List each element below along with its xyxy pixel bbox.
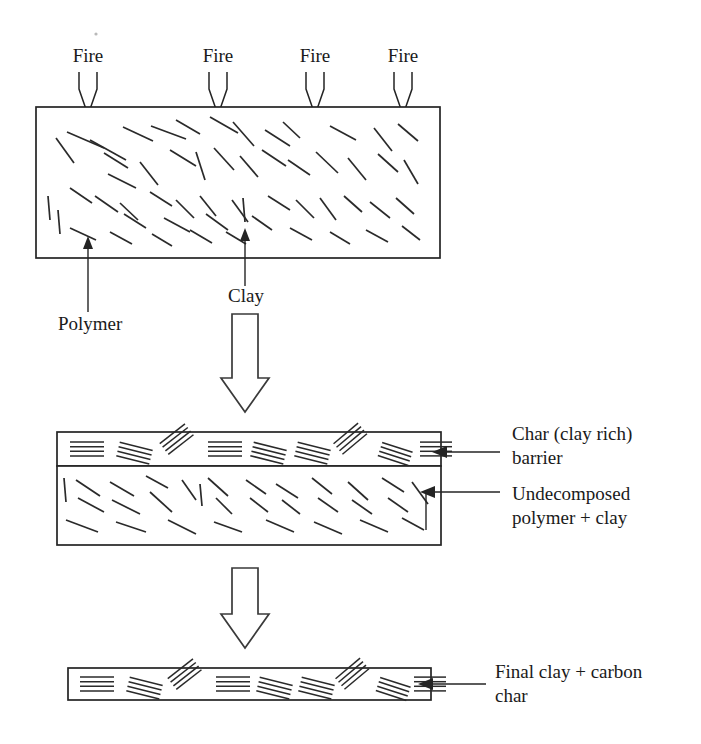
char-barrier-label-1: Char (clay rich): [512, 423, 632, 445]
final-stage-bar: [68, 658, 446, 700]
bottom-callout-group: Final clay + carbonchar: [418, 661, 643, 706]
undecomposed-label-2: polymer + clay: [512, 507, 628, 528]
fire-arrows-group: FireFireFireFire: [73, 45, 419, 115]
final-char-label-2: char: [495, 685, 528, 706]
initial-composite-box: [36, 107, 440, 258]
clay-label: Clay: [228, 285, 264, 306]
fire-label-2: Fire: [300, 45, 331, 66]
polymer-label: Polymer: [58, 313, 123, 334]
char-barrier-band: [57, 432, 441, 466]
final-char-bar: [68, 668, 431, 700]
final-char-label-1: Final clay + carbon: [495, 661, 643, 682]
process-arrow-2: [221, 568, 269, 648]
nanocomposite-fire-diagram: FireFireFireFire PolymerClay Char (clay …: [0, 0, 701, 744]
mid-callout-group: Char (clay rich)barrierUndecomposedpolym…: [420, 423, 632, 530]
fire-label-0: Fire: [73, 45, 104, 66]
figure-container: FireFireFireFire PolymerClay Char (clay …: [0, 0, 701, 744]
char-barrier-label-2: barrier: [512, 447, 563, 468]
fire-label-1: Fire: [203, 45, 234, 66]
undecomposed-polymer-band: [57, 466, 441, 545]
polymer-matrix-box: [36, 107, 440, 258]
fire-label-3: Fire: [388, 45, 419, 66]
page-speck: [94, 32, 97, 35]
process-arrow-1: [221, 314, 269, 412]
intermediate-stage-box: [57, 423, 452, 545]
undecomposed-label-1: Undecomposed: [512, 483, 631, 504]
